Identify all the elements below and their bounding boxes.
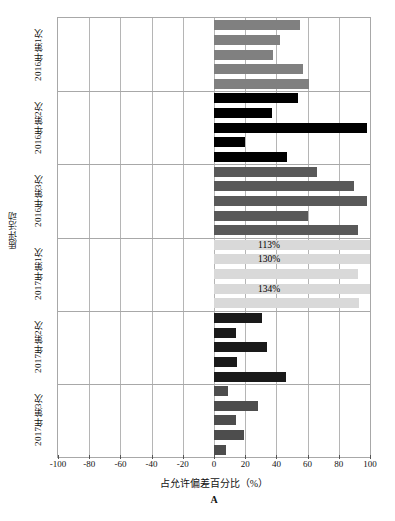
y-axis-group-label-text: 2017年第3次 [31, 394, 44, 446]
bar [214, 196, 367, 206]
y-axis-group-label-text: 2017年第2次 [31, 321, 44, 373]
x-tick-label: 20 [241, 459, 250, 469]
bar [214, 152, 287, 162]
x-tick-label: 40 [272, 459, 281, 469]
bar [214, 167, 317, 177]
bar [214, 313, 262, 323]
bar [214, 137, 245, 147]
gridline-group-separator [58, 384, 370, 385]
bar [214, 123, 367, 133]
y-axis-group-label-text: 2016年第2次 [31, 102, 44, 154]
bar [214, 445, 226, 455]
bar-value-label: 134% [258, 284, 280, 294]
y-axis-title-text: 质评活动 [5, 211, 18, 249]
bar [214, 181, 354, 191]
bar [214, 108, 272, 118]
bar [214, 254, 371, 264]
bar [214, 240, 371, 250]
chart-figure: 质评活动 2016年第1次2016年第2次2016年第3次2017年第1次201… [0, 0, 395, 521]
bar [214, 20, 300, 30]
x-axis-ticks: -100-80-60-40-20020406080100 [57, 459, 371, 475]
bar [214, 225, 358, 235]
y-axis-group-label: 2016年第2次 [18, 91, 57, 164]
bar [214, 415, 236, 425]
y-axis-group-label: 2017年第3次 [18, 384, 57, 457]
bar [214, 35, 280, 45]
y-axis-group-label-text: 2016年第1次 [31, 29, 44, 81]
y-axis-group-label: 2017年第2次 [18, 311, 57, 384]
bar [214, 386, 228, 396]
y-axis-group-labels: 2016年第1次2016年第2次2016年第3次2017年第1次2017年第2次… [18, 17, 57, 458]
y-axis-group-label: 2016年第3次 [18, 164, 57, 237]
x-tick-label: 0 [212, 459, 217, 469]
x-tick-label: -80 [83, 459, 95, 469]
x-tick-label: -100 [50, 459, 67, 469]
bar [214, 298, 359, 308]
y-axis-group-label-text: 2016年第3次 [31, 175, 44, 227]
x-tick-label: 100 [363, 459, 377, 469]
bar [214, 401, 258, 411]
bar [214, 328, 236, 338]
bar [214, 430, 244, 440]
bar [214, 79, 309, 89]
bar [214, 372, 286, 382]
panel-letter: A [57, 494, 371, 505]
bar-value-label: 130% [258, 254, 280, 264]
x-tick-label: -20 [177, 459, 189, 469]
x-axis-title: 占允许偏差百分比（%） [57, 475, 371, 490]
bar [214, 284, 371, 294]
plot-area: 113%130%134% [57, 17, 371, 458]
x-tick-label: 80 [334, 459, 343, 469]
gridline-group-separator [58, 164, 370, 165]
bar [214, 64, 303, 74]
y-axis-group-label: 2017年第1次 [18, 238, 57, 311]
bar [214, 93, 298, 103]
x-tick-label: 60 [303, 459, 312, 469]
bar [214, 342, 267, 352]
y-axis-group-label-text: 2017年第1次 [31, 248, 44, 300]
bar [214, 211, 308, 221]
x-tick-label: -40 [146, 459, 158, 469]
bar [214, 50, 273, 60]
x-tick-label: -60 [114, 459, 126, 469]
bar-value-label: 113% [258, 240, 280, 250]
gridline-group-separator [58, 311, 370, 312]
gridline-group-separator [58, 91, 370, 92]
bar [214, 269, 358, 279]
y-axis-group-label: 2016年第1次 [18, 18, 57, 91]
bar [214, 357, 237, 367]
